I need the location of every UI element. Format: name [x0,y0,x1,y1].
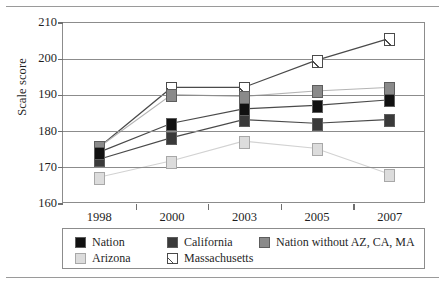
y-tick-mark [58,95,63,96]
legend-item[interactable]: California [167,235,233,250]
data-point-marker [384,94,395,107]
data-point-marker [312,85,323,98]
data-point-marker [166,132,177,145]
plot-area: 21020019018017016019982000200320052007 [62,22,425,203]
y-tick-label: 170 [17,160,57,175]
top-divider-rule [6,6,439,7]
gridline [63,59,424,60]
legend-label: Nation without AZ, CA, MA [276,235,415,250]
x-tick-label: 2003 [215,210,275,225]
y-tick-mark [58,131,63,132]
legend-label: Nation [92,235,125,250]
data-point-marker [239,103,250,116]
x-tick-label: 2000 [142,210,202,225]
data-point-marker [312,143,323,156]
legend-item[interactable]: Massachusetts [167,251,253,266]
gridline [63,131,424,132]
y-tick-label: 180 [17,124,57,139]
legend-item[interactable]: Nation without AZ, CA, MA [259,235,415,250]
legend-label: Massachusetts [184,251,253,266]
legend-label: Arizona [92,251,131,266]
data-point-marker [384,33,395,46]
chart-legend: NationCaliforniaNation without AZ, CA, M… [62,228,425,269]
data-point-marker [94,172,105,185]
gridline [63,167,424,168]
data-point-marker [166,118,177,131]
x-tick-mark [353,204,354,210]
y-tick-mark [58,59,63,60]
data-point-marker [166,89,177,102]
x-tick-mark [136,204,137,210]
data-point-marker [94,147,105,160]
x-tick-mark [208,204,209,210]
data-point-marker [312,100,323,113]
y-tick-label: 190 [17,87,57,102]
y-tick-label: 210 [17,15,57,30]
data-point-marker [239,136,250,149]
data-point-marker [384,82,395,95]
x-tick-label: 1998 [69,210,129,225]
y-tick-mark [58,22,63,23]
chart-figure: Scale score 2102001901801701601998200020… [0,0,445,288]
x-tick-label: 2007 [360,210,420,225]
medium-gray-square-icon [259,237,270,248]
data-point-marker [239,91,250,104]
bottom-divider-rule [6,277,439,278]
data-point-marker [384,169,395,182]
y-tick-label: 200 [17,51,57,66]
y-tick-mark [58,203,63,204]
y-tick-label: 160 [17,196,57,211]
hatched-square-icon [167,253,178,264]
black-square-icon [75,237,86,248]
data-point-marker [312,118,323,131]
data-point-marker [312,55,323,68]
x-tick-mark [281,204,282,210]
dark-gray-square-icon [167,237,178,248]
data-point-marker [166,156,177,169]
legend-label: California [184,235,233,250]
x-tick-label: 2005 [287,210,347,225]
light-gray-square-icon [75,253,86,264]
legend-item[interactable]: Nation [75,235,125,250]
y-tick-mark [58,167,63,168]
data-point-marker [384,114,395,127]
legend-item[interactable]: Arizona [75,251,131,266]
